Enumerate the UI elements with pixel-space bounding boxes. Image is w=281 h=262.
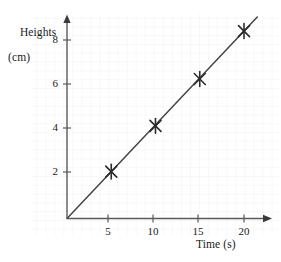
x-axis-title: Time (s) [196, 238, 236, 251]
x-tick-label-15: 15 [189, 226, 207, 237]
scatter-chart: Heights (cm) Time (s) 8 6 4 2 5 10 15 20 [0, 0, 281, 262]
y-tick-label-8: 8 [44, 34, 58, 45]
y-axis-title-line2: (cm) [8, 51, 56, 64]
y-tick-label-6: 6 [44, 78, 58, 89]
x-tick-label-5: 5 [99, 226, 117, 237]
x-tick-label-20: 20 [235, 226, 253, 237]
y-axis-title: Heights (cm) [8, 13, 56, 88]
y-tick-label-2: 2 [44, 166, 58, 177]
x-tick-label-10: 10 [144, 226, 162, 237]
y-tick-label-4: 4 [44, 122, 58, 133]
